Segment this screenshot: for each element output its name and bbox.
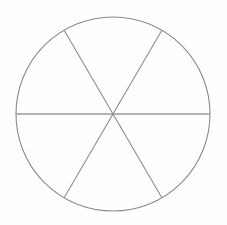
circle-sectors-diagram [0,0,227,225]
figure-canvas [0,0,227,225]
